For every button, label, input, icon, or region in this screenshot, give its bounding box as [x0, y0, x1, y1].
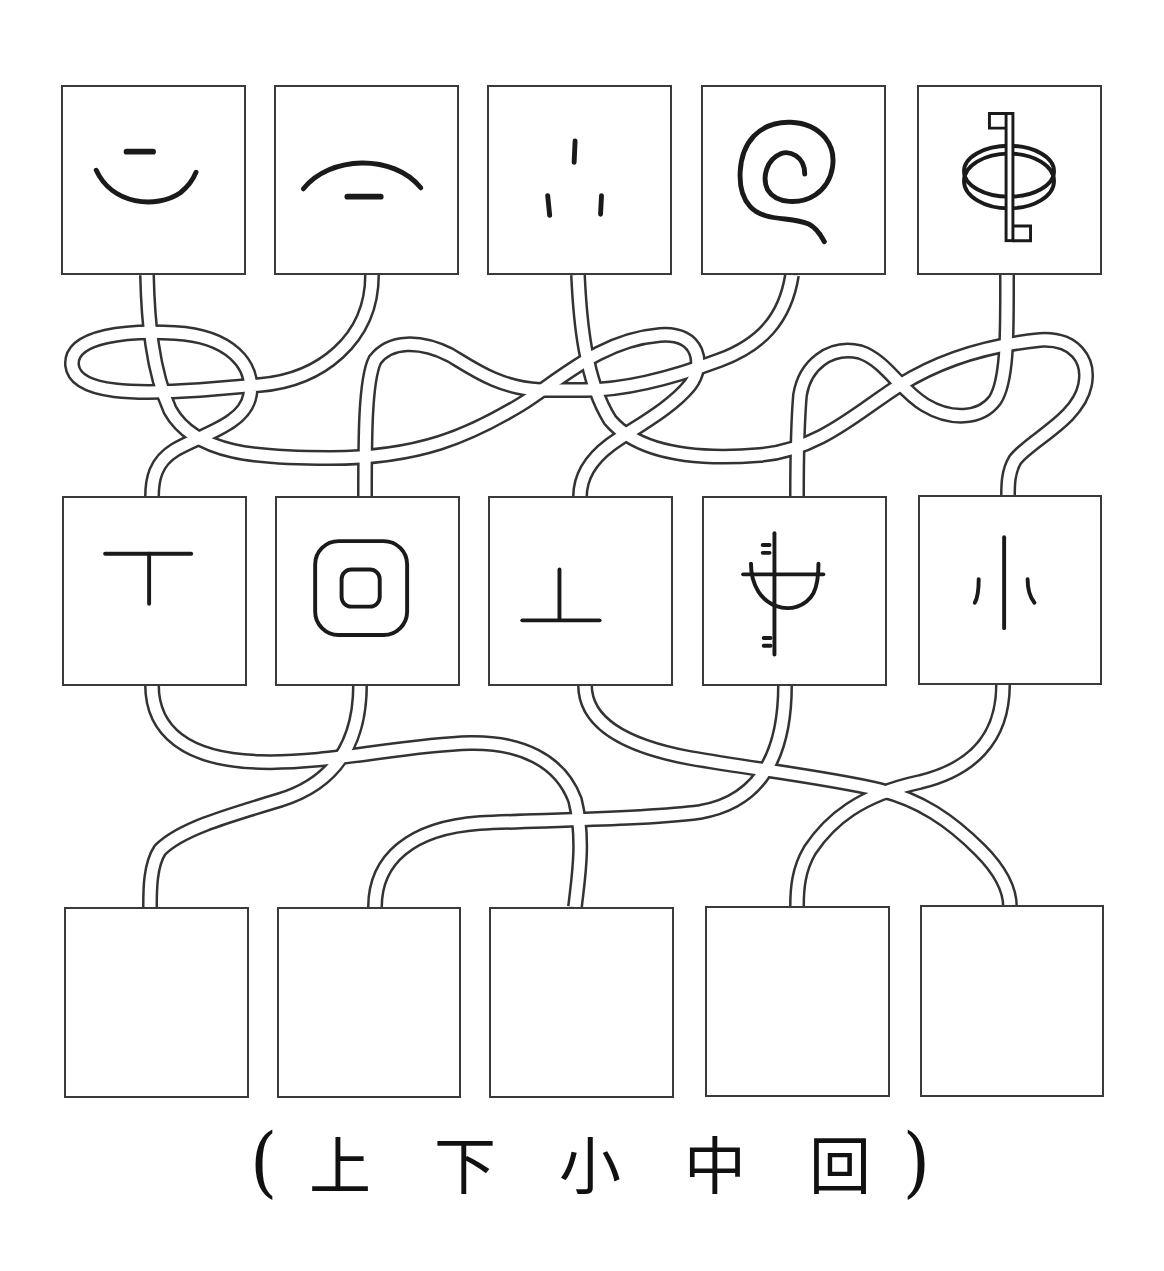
seal-xia-glyph-icon [64, 498, 245, 684]
option-shang: 上 [277, 1117, 402, 1207]
ancient-xiao-glyph-icon [489, 87, 670, 273]
middle-box-3 [488, 496, 673, 686]
answer-box-5[interactable] [920, 905, 1104, 1097]
answer-box-3[interactable] [489, 907, 674, 1098]
ancient-shang-glyph-icon [63, 87, 244, 273]
seal-zhong-glyph-icon [704, 498, 885, 684]
tube-m1-to-b3 [152, 685, 580, 907]
seal-xiao-glyph-icon [920, 497, 1100, 683]
tube-m2-to-b1 [150, 685, 360, 907]
middle-box-4 [702, 496, 887, 686]
open-paren: ( [250, 1117, 277, 1207]
answer-options: ( 上 下 小 中 回 ) [250, 1122, 930, 1202]
option-xiao: 小 [527, 1117, 652, 1207]
answer-box-4[interactable] [705, 906, 890, 1097]
close-paren: ) [903, 1117, 930, 1207]
ancient-xia-glyph-icon [276, 87, 457, 273]
middle-box-2 [275, 496, 460, 686]
top-box-3 [487, 85, 672, 275]
top-box-2 [274, 85, 459, 275]
answer-box-2[interactable] [277, 907, 461, 1098]
maze-diagram: ( 上 下 小 中 回 ) [0, 0, 1164, 1271]
ancient-hui-spiral-glyph-icon [703, 87, 884, 273]
option-hui: 回 [778, 1117, 903, 1207]
tube-group-lower [150, 685, 1010, 907]
ancient-zhong-glyph-icon [919, 87, 1100, 273]
tube-group-upper [72, 275, 1086, 497]
top-box-4 [701, 85, 886, 275]
middle-box-1 [62, 496, 247, 686]
answer-box-1[interactable] [64, 907, 249, 1098]
tube-m1-to-b3-core [152, 685, 580, 907]
option-xia: 下 [402, 1117, 527, 1207]
tube-t5-to-m4-core [797, 275, 1007, 497]
seal-shang-glyph-icon [490, 498, 671, 684]
option-zhong: 中 [653, 1117, 778, 1207]
top-box-5 [917, 85, 1102, 275]
middle-box-5 [918, 495, 1102, 685]
seal-hui-glyph-icon [277, 498, 458, 684]
tube-m2-to-b1-core [150, 685, 360, 907]
top-box-1 [61, 85, 246, 275]
